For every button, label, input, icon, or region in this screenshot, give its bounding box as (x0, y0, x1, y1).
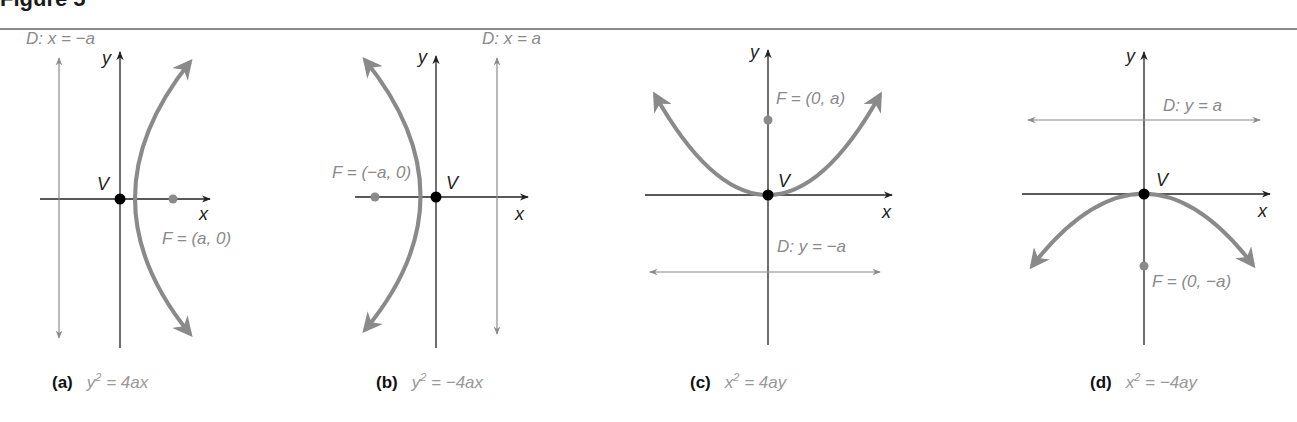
y-axis-label: y (100, 48, 112, 68)
parabola-curve (1032, 194, 1253, 266)
caption-a: (a)y2 = 4ax (52, 371, 148, 393)
y-axis-label: y (416, 47, 428, 67)
caption-tag: (c) (690, 373, 711, 392)
panel-c: y x V F = (0, a) D: y = −a (645, 42, 892, 345)
panel-b: y x V D: x = a F = (−a, 0) (332, 29, 541, 348)
vertex-point (115, 194, 126, 205)
focus-label: F = (0, −a) (1152, 272, 1231, 291)
y-axis-label: y (748, 42, 760, 62)
focus-label: F = (0, a) (776, 89, 845, 108)
vertex-label: V (97, 174, 111, 194)
caption-equation: x2 = 4ay (725, 373, 786, 392)
vertex-label: V (1156, 170, 1170, 190)
vertex-label: V (446, 173, 460, 193)
directrix-label: D: y = a (1163, 96, 1222, 115)
focus-point (371, 193, 380, 202)
focus-point (764, 116, 773, 125)
caption-equation: y2 = 4ax (87, 373, 148, 392)
parabola-diagrams: y x V D: x = −a F = (a, 0) y x V D: x = … (0, 0, 1297, 422)
caption-equation: y2 = −4ax (412, 373, 483, 392)
x-axis-label: x (1257, 201, 1268, 221)
directrix-label: D: y = −a (777, 237, 846, 256)
caption-equation: x2 = −4ay (1126, 373, 1197, 392)
vertex-point (431, 192, 442, 203)
vertex-point (763, 190, 774, 201)
parabola-curve (135, 62, 190, 334)
caption-d: (d)x2 = −4ay (1090, 371, 1197, 393)
directrix-label: D: x = a (482, 29, 541, 48)
focus-label: F = (a, 0) (162, 229, 231, 248)
caption-b: (b)y2 = −4ax (376, 371, 483, 393)
focus-point (1140, 262, 1149, 271)
caption-c: (c)x2 = 4ay (690, 371, 786, 393)
directrix-label: D: x = −a (26, 29, 95, 48)
vertex-point (1139, 189, 1150, 200)
focus-label: F = (−a, 0) (332, 163, 411, 182)
y-axis-label: y (1124, 46, 1136, 66)
focus-point (169, 195, 178, 204)
caption-tag: (d) (1090, 373, 1112, 392)
panel-d: y x V D: y = a F = (0, −a) (1022, 46, 1270, 345)
x-axis-label: x (881, 202, 892, 222)
x-axis-label: x (514, 204, 525, 224)
x-axis-label: x (198, 204, 209, 224)
vertex-label: V (778, 171, 792, 191)
caption-tag: (b) (376, 373, 398, 392)
panel-a: y x V D: x = −a F = (a, 0) (26, 29, 231, 348)
caption-tag: (a) (52, 373, 73, 392)
